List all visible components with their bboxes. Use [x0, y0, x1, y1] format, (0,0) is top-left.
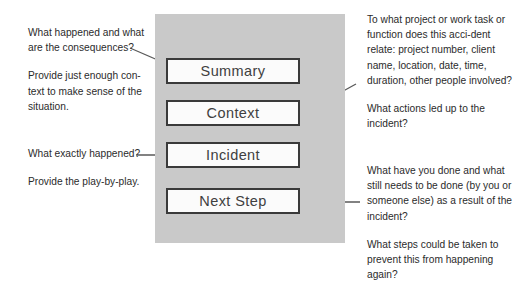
- note-next-step-paragraph-2: What steps could be taken to prevent thi…: [367, 237, 519, 281]
- note-incident: What exactly happened? Provide the play-…: [28, 146, 150, 189]
- stage-box-next-step[interactable]: Next Step: [166, 188, 300, 214]
- note-summary-paragraph-2: Provide just enough con-text to make sen…: [28, 68, 150, 114]
- note-next-step: What have you done and what still needs …: [367, 163, 519, 281]
- stage-box-summary[interactable]: Summary: [166, 58, 300, 84]
- note-context: To what project or work task or function…: [367, 12, 519, 131]
- stage-label-next-step: Next Step: [199, 193, 266, 209]
- diagram-canvas: Summary Context Incident Next Step What …: [0, 0, 527, 281]
- stage-box-incident[interactable]: Incident: [166, 142, 300, 168]
- note-next-step-paragraph-1: What have you done and what still needs …: [367, 163, 519, 224]
- note-incident-paragraph-1: What exactly happened?: [28, 146, 150, 161]
- stage-box-context[interactable]: Context: [166, 100, 300, 126]
- stage-label-summary: Summary: [201, 63, 266, 79]
- note-context-paragraph-1: To what project or work task or function…: [367, 12, 519, 88]
- stage-label-context: Context: [207, 105, 260, 121]
- stage-panel: Summary Context Incident Next Step: [155, 14, 345, 243]
- note-context-paragraph-2: What actions led up to the incident?: [367, 101, 519, 131]
- stage-label-incident: Incident: [206, 147, 260, 163]
- note-summary: What happened and what are the consequen…: [28, 25, 150, 114]
- note-summary-paragraph-1: What happened and what are the consequen…: [28, 25, 150, 55]
- note-incident-paragraph-2: Provide the play-by-play.: [28, 174, 150, 189]
